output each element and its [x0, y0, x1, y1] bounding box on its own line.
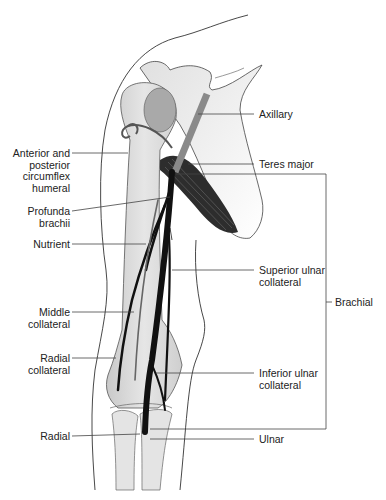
label-radial-collateral: Radial collateral [0, 353, 70, 376]
label-nutrient: Nutrient [0, 239, 70, 251]
humerus-bone [106, 83, 182, 408]
label-ulnar: Ulnar [259, 434, 284, 446]
label-brachial: Brachial [335, 297, 373, 309]
label-circumflex-humeral: Anterior and posterior circumflex humera… [0, 148, 70, 194]
forearm-bones [110, 404, 172, 491]
label-radial: Radial [0, 431, 70, 443]
label-middle-collateral: Middle collateral [0, 307, 70, 330]
label-inferior-ulnar-collateral: Inferior ulnar collateral [259, 368, 318, 391]
label-teres-major: Teres major [259, 159, 314, 171]
label-axillary: Axillary [259, 109, 293, 121]
label-profunda-brachii: Profunda brachii [0, 206, 70, 229]
label-superior-ulnar-collateral: Superior ulnar collateral [259, 265, 325, 288]
